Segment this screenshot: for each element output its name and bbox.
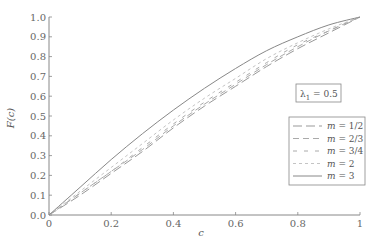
y-tick-label: 1.0	[30, 12, 46, 23]
legend-item: m = 3/4	[327, 146, 364, 156]
legend-item: m = 1/2	[327, 121, 363, 131]
x-tick-label: 1	[357, 218, 363, 229]
y-axis-label: F(c)	[5, 108, 16, 129]
y-tick-label: 0.5	[30, 111, 46, 122]
x-tick-label: 0.8	[290, 218, 306, 229]
line-chart: 00.20.40.60.810.00.10.20.30.40.50.60.70.…	[0, 0, 381, 239]
legend-item: m = 3	[327, 171, 355, 181]
y-tick-label: 0.2	[30, 170, 46, 181]
y-tick-label: 0.3	[30, 150, 46, 161]
x-tick-label: 0.2	[103, 218, 119, 229]
x-axis-label: c	[198, 227, 204, 238]
y-tick-label: 0.7	[30, 71, 46, 82]
y-tick-label: 0.4	[30, 130, 46, 141]
y-tick-label: 0.0	[30, 210, 46, 221]
x-tick-label: 0.6	[228, 218, 244, 229]
legend: m = 1/2m = 2/3m = 3/4m = 2m = 3	[289, 117, 365, 185]
y-tick-label: 0.8	[30, 51, 46, 62]
annotation-box: λ1 = 0.5	[296, 84, 341, 102]
x-tick-label: 0	[46, 218, 52, 229]
y-tick-label: 0.6	[30, 91, 46, 102]
legend-item: m = 2/3	[327, 134, 364, 144]
legend-item: m = 2	[327, 159, 355, 169]
y-tick-label: 0.9	[30, 31, 46, 42]
x-tick-label: 0.4	[165, 218, 181, 229]
y-tick-label: 0.1	[30, 190, 46, 201]
